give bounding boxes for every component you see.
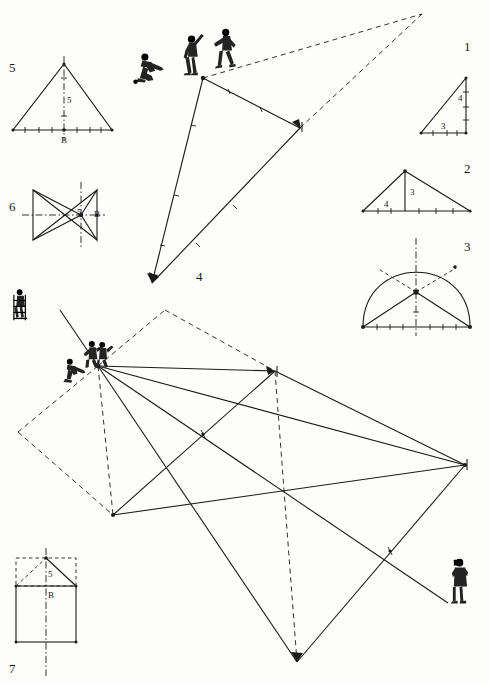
fig4-edge-top-right [203, 78, 300, 128]
fig6-dimension-5: 5 [77, 208, 82, 217]
fig4-ray-upper-dashed [203, 14, 422, 78]
fig1-dimension-4: 4 [458, 94, 463, 103]
pair-of-figures-lower-figure [84, 341, 114, 368]
figure-label-5: 5 [9, 61, 16, 74]
figure-6-group [22, 182, 105, 249]
people-lower-group [13, 289, 468, 603]
fig6-dimension-B: B [94, 210, 100, 219]
fig5-triangle [13, 64, 112, 130]
fig1-ticks [433, 92, 469, 136]
fig4-edge-ticks [160, 89, 262, 247]
fig7-roof-left-dashed [16, 558, 46, 586]
lower-dash-vertical-left [98, 366, 113, 515]
fig2-dimension-4: 4 [384, 200, 389, 209]
fig5-dimension-B: B [61, 136, 67, 145]
figure-on-ladder-figure [13, 289, 27, 320]
fig3-radial-up-right [416, 268, 456, 292]
figure-label-6: 6 [9, 200, 16, 213]
lower-line-farright-to-bottom [297, 465, 465, 662]
fig2-dimension-3: 3 [410, 188, 415, 197]
walking-figure-right-figure [214, 29, 236, 69]
lower-line-leftlow-to-farright [113, 465, 465, 515]
figure-label-4: 4 [196, 270, 203, 283]
lower-line-apex-to-bottom [98, 366, 297, 662]
figure-5-group [11, 56, 113, 140]
fig3-arch [363, 272, 470, 327]
plate-canvas: 1 4 3 2 3 4 3 4 5 5 B 6 5 B 7 5 B [0, 0, 489, 683]
lower-dash-apex-right [165, 310, 275, 371]
lower-line-topright-to-farright [275, 371, 465, 465]
lower-arrow-topright [266, 366, 275, 375]
fig4-edge-right-bottom [152, 128, 300, 283]
kneeling-surveyor-left-figure [133, 54, 163, 84]
fig7-dimension-5: 5 [48, 570, 53, 579]
fig4-edge-left [152, 78, 203, 283]
fig7-dimension-B: B [48, 591, 54, 600]
fig2-hyp-tick [385, 185, 390, 190]
fig5-dimension-5: 5 [67, 96, 72, 105]
figure-label-1: 1 [464, 40, 471, 53]
fig3-radial-down-right [416, 292, 470, 327]
fig1-dimension-3: 3 [441, 122, 446, 131]
lower-dash-left-upper [18, 366, 98, 432]
fig2-triangle [363, 171, 470, 211]
people-upper-group [133, 29, 235, 84]
lower-dash-left-lower [18, 432, 113, 515]
lower-line-camera-sightline [98, 366, 448, 603]
fig3-radial-up-left [377, 268, 416, 292]
lower-dash-apex-left [98, 310, 165, 366]
figure-3-group [361, 238, 472, 336]
lower-line-top-horizontal [98, 366, 275, 371]
figure-label-7: 7 [9, 662, 16, 675]
fig4-ray-lower-dashed [300, 14, 422, 128]
figure-2-group [362, 169, 472, 214]
figure-label-3: 3 [464, 240, 471, 253]
figure-label-2: 2 [464, 162, 471, 175]
standing-assistant-center-figure [184, 34, 204, 75]
photographer-with-camera-figure [451, 559, 468, 604]
drawing-surface [0, 0, 489, 683]
lower-line-apex-to-far-right [98, 366, 465, 465]
lower-scene-group [18, 310, 467, 662]
figure-7-group [15, 548, 78, 676]
